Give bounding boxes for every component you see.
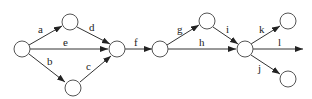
label-f: f (134, 36, 138, 48)
label-j: j (257, 62, 261, 74)
label-a: a (38, 23, 43, 35)
label-i: i (226, 23, 229, 35)
label-l: l (278, 36, 281, 48)
edge-k (251, 26, 280, 44)
label-b: b (47, 55, 53, 67)
label-d: d (89, 21, 95, 33)
node-5 (152, 41, 168, 57)
node-7 (237, 41, 253, 57)
label-g: g (177, 23, 183, 35)
node-3 (65, 80, 81, 96)
network-diagram: a e b d c f g h i k l j (0, 0, 312, 99)
node-9 (280, 71, 296, 87)
node-2 (62, 14, 78, 30)
nodes (14, 13, 296, 96)
edge-g (167, 25, 199, 45)
edge-c (80, 56, 111, 82)
node-4 (109, 41, 125, 57)
label-h: h (199, 36, 205, 48)
edge-a (29, 26, 62, 45)
label-e: e (63, 36, 68, 48)
edge-j (251, 55, 280, 74)
node-6 (199, 13, 215, 29)
label-c: c (86, 60, 91, 72)
node-8 (280, 13, 296, 29)
node-1 (14, 41, 30, 57)
label-k: k (259, 23, 265, 35)
